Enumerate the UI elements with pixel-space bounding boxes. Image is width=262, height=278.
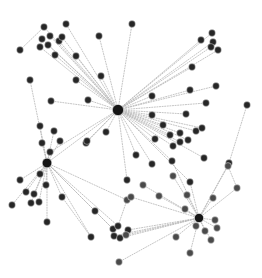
graph-node[interactable]	[117, 235, 124, 242]
graph-node[interactable]	[184, 192, 191, 199]
graph-node[interactable]	[115, 223, 122, 230]
graph-node[interactable]	[47, 33, 54, 40]
graph-edge	[118, 110, 190, 182]
graph-node[interactable]	[123, 232, 130, 239]
graph-node[interactable]	[73, 77, 80, 84]
graph-node[interactable]	[59, 34, 66, 41]
graph-node[interactable]	[214, 225, 221, 232]
graph-node[interactable]	[51, 128, 58, 135]
nodes-layer	[9, 21, 251, 266]
graph-node[interactable]	[140, 182, 147, 189]
graph-node[interactable]	[160, 122, 167, 129]
graph-node[interactable]	[167, 132, 174, 139]
edges-layer	[12, 24, 247, 262]
graph-node[interactable]	[37, 171, 44, 178]
graph-node[interactable]	[215, 47, 222, 54]
graph-edge	[190, 182, 199, 218]
graph-hub-node[interactable]	[112, 104, 123, 115]
network-graph-canvas	[0, 0, 262, 278]
graph-node[interactable]	[152, 136, 159, 143]
graph-node[interactable]	[169, 158, 176, 165]
graph-node[interactable]	[156, 193, 163, 200]
graph-node[interactable]	[198, 37, 205, 44]
graph-node[interactable]	[187, 250, 194, 257]
graph-node[interactable]	[201, 155, 208, 162]
graph-node[interactable]	[98, 73, 105, 80]
graph-node[interactable]	[36, 199, 43, 206]
graph-node[interactable]	[149, 161, 156, 168]
graph-node[interactable]	[88, 234, 95, 241]
graph-node[interactable]	[213, 83, 220, 90]
graph-edge	[51, 101, 118, 110]
graph-node[interactable]	[84, 138, 91, 145]
graph-node[interactable]	[47, 149, 54, 156]
graph-node[interactable]	[170, 173, 177, 180]
graph-node[interactable]	[199, 125, 206, 132]
graph-node[interactable]	[129, 21, 136, 28]
graph-node[interactable]	[103, 129, 110, 136]
graph-node[interactable]	[193, 223, 200, 230]
graph-node[interactable]	[48, 98, 55, 105]
graph-node[interactable]	[202, 228, 209, 235]
graph-edge	[118, 67, 192, 110]
graph-node[interactable]	[27, 77, 34, 84]
graph-node[interactable]	[116, 259, 123, 266]
graph-node[interactable]	[37, 44, 44, 51]
graph-node[interactable]	[210, 195, 217, 202]
graph-node[interactable]	[128, 194, 135, 201]
graph-node[interactable]	[57, 138, 64, 145]
graph-node[interactable]	[85, 97, 92, 104]
graph-node[interactable]	[73, 53, 80, 60]
graph-node[interactable]	[208, 44, 215, 51]
graph-node[interactable]	[212, 217, 219, 224]
graph-edge	[62, 197, 91, 237]
graph-node[interactable]	[182, 206, 189, 213]
graph-node[interactable]	[208, 237, 215, 244]
graph-edge	[199, 163, 229, 218]
graph-edge	[47, 163, 118, 226]
graph-hub-node[interactable]	[42, 158, 52, 168]
graph-node[interactable]	[41, 24, 48, 31]
graph-node[interactable]	[187, 179, 194, 186]
graph-node[interactable]	[43, 182, 50, 189]
graph-node[interactable]	[124, 177, 131, 184]
graph-hub-node[interactable]	[194, 213, 203, 222]
graph-node[interactable]	[170, 143, 177, 150]
graph-node[interactable]	[244, 102, 251, 109]
graph-node[interactable]	[17, 47, 24, 54]
graph-node[interactable]	[52, 52, 59, 59]
graph-node[interactable]	[183, 111, 190, 118]
graph-node[interactable]	[133, 152, 140, 159]
graph-node[interactable]	[225, 163, 232, 170]
graph-node[interactable]	[189, 64, 196, 71]
graph-node[interactable]	[177, 130, 184, 137]
graph-edge	[131, 197, 199, 218]
graph-node[interactable]	[209, 30, 216, 37]
graph-node[interactable]	[187, 87, 194, 94]
graph-node[interactable]	[23, 189, 30, 196]
graph-node[interactable]	[59, 194, 66, 201]
graph-node[interactable]	[193, 128, 200, 135]
graph-node[interactable]	[17, 177, 24, 184]
graph-node[interactable]	[39, 140, 46, 147]
graph-node[interactable]	[63, 21, 70, 28]
graph-edge	[12, 163, 47, 205]
graph-node[interactable]	[185, 137, 192, 144]
graph-node[interactable]	[96, 33, 103, 40]
graph-node[interactable]	[45, 42, 52, 49]
graph-node[interactable]	[177, 139, 184, 146]
graph-node[interactable]	[9, 202, 16, 209]
graph-node[interactable]	[37, 123, 44, 130]
graph-node[interactable]	[31, 191, 38, 198]
graph-node[interactable]	[44, 219, 51, 226]
graph-node[interactable]	[28, 200, 35, 207]
graph-node[interactable]	[92, 208, 99, 215]
graph-edge	[118, 200, 127, 226]
graph-node[interactable]	[234, 185, 241, 192]
graph-node[interactable]	[173, 234, 180, 241]
graph-node[interactable]	[39, 36, 46, 43]
graph-node[interactable]	[203, 100, 210, 107]
graph-node[interactable]	[149, 93, 156, 100]
graph-node[interactable]	[111, 233, 118, 240]
graph-node[interactable]	[149, 112, 156, 119]
